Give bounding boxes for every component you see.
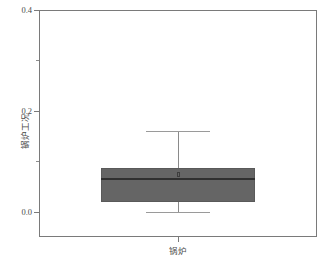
plot-area: [39, 10, 317, 237]
y-tick-0.1: [36, 161, 39, 162]
y-tick-0.0: [34, 212, 39, 213]
y-tick-0.4: [34, 10, 39, 11]
x-axis-label-boiler: 锅炉: [169, 244, 187, 256]
boxplot-figure: 0.4 0.2 0.0 锅炉工况 锅炉: [0, 0, 325, 262]
x-tick-boiler: [178, 237, 179, 242]
y-tick-label-0.4: 0.4: [21, 6, 32, 15]
y-axis-title: 锅炉工况: [18, 113, 30, 150]
y-tick-label-0.0: 0.0: [21, 208, 32, 217]
y-tick-0.2: [34, 111, 39, 112]
y-tick-0.3: [36, 60, 39, 61]
